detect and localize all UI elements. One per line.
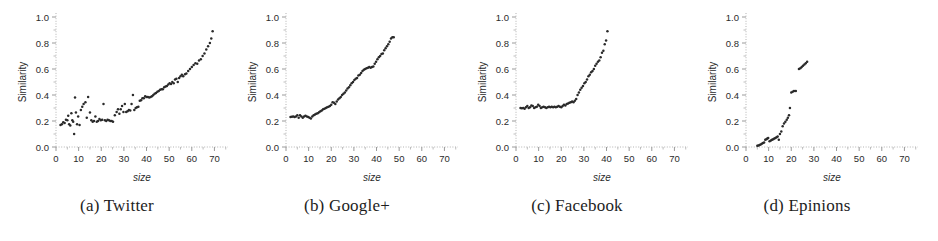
panel-epinions: 0102030405060700.00.20.40.60.81.0Similar… [690,0,924,241]
x-tick-label: 20 [556,153,567,164]
x-tick-label: 40 [371,153,382,164]
data-point [118,113,121,116]
data-point [70,112,73,115]
data-point [584,81,587,84]
panel-caption: (a) Twitter [0,196,234,216]
data-point [115,111,118,114]
data-point [93,120,96,123]
data-point [119,108,122,111]
x-tick-label: 30 [809,153,820,164]
data-point [375,61,378,64]
data-point [575,98,578,101]
y-tick-label: 0.8 [726,38,739,49]
data-point [130,103,133,106]
data-point [192,64,195,67]
data-point [211,30,214,33]
x-tick-label: 70 [899,153,910,164]
x-axis-title: size [363,172,381,183]
data-point [578,91,581,94]
data-point [589,74,592,77]
data-point [203,52,206,55]
x-tick-label: 20 [96,153,107,164]
data-point [593,68,596,71]
y-tick-label: 0.8 [266,38,279,49]
data-point [63,122,66,125]
data-point [182,75,185,78]
y-axis-title: Similarity [707,62,718,103]
data-point [191,66,194,69]
data-point [196,63,199,66]
data-point [334,103,337,106]
data-point [778,139,781,142]
y-axis-title: Similarity [477,62,488,103]
data-point [606,30,609,33]
data-point [795,90,798,93]
data-point [788,114,791,117]
data-point [586,78,589,81]
x-tick-label: 30 [349,153,360,164]
scatter-plot: 0102030405060700.00.20.40.60.81.0Similar… [690,0,924,190]
data-point [789,107,792,110]
data-point [117,108,120,111]
data-point [603,43,606,46]
data-point [779,133,782,136]
data-point [605,39,608,42]
data-point [576,94,579,97]
data-point [330,104,333,107]
data-point [776,135,779,138]
data-point [296,114,299,117]
data-point [87,96,90,99]
scatter-plot: 0102030405060700.00.20.40.60.81.0Similar… [230,0,464,190]
data-point [189,68,192,71]
x-tick-label: 70 [439,153,450,164]
data-point [210,37,213,40]
y-tick-label: 0.2 [726,116,739,127]
data-point [187,70,190,73]
x-tick-label: 50 [624,153,635,164]
data-point [598,59,601,62]
data-point [200,58,203,61]
data-point [81,105,84,108]
y-tick-label: 0.8 [496,38,509,49]
data-point [137,105,140,108]
data-point [787,117,790,120]
x-tick-label: 0 [513,153,518,164]
x-tick-label: 60 [417,153,428,164]
x-tick-label: 40 [601,153,612,164]
x-tick-label: 70 [209,153,220,164]
panel-googleplus: 0102030405060700.00.20.40.60.81.0Similar… [230,0,464,241]
x-tick-label: 60 [187,153,198,164]
data-point [602,50,605,53]
panel-caption: (b) Google+ [230,196,464,216]
x-axis-title: size [133,172,151,183]
data-point [388,40,391,43]
y-tick-label: 0.6 [726,64,739,75]
y-tick-label: 1.0 [266,12,279,23]
data-point [77,115,80,118]
data-point [185,72,188,75]
data-point [114,114,117,117]
y-tick-label: 1.0 [726,12,739,23]
panel-caption: (d) Epinions [690,196,924,216]
data-point [102,103,105,106]
data-point [392,36,395,39]
data-point [75,111,78,114]
scatter-plot: 0102030405060700.00.20.40.60.81.0Similar… [460,0,694,190]
data-point [767,137,770,140]
y-tick-label: 1.0 [496,12,509,23]
data-point [177,81,180,84]
data-point [172,82,175,85]
x-axis-title: size [593,172,611,183]
data-point [94,115,97,118]
data-point [356,77,359,80]
y-tick-label: 0.2 [36,116,49,127]
x-tick-label: 30 [119,153,130,164]
data-point [78,124,81,127]
x-tick-label: 10 [303,153,314,164]
y-tick-label: 0.6 [266,64,279,75]
data-point [82,103,85,106]
scatter-plot: 0102030405060700.00.20.40.60.81.0Similar… [0,0,234,190]
x-tick-label: 20 [326,153,337,164]
data-point [86,117,89,120]
x-tick-label: 10 [763,153,774,164]
